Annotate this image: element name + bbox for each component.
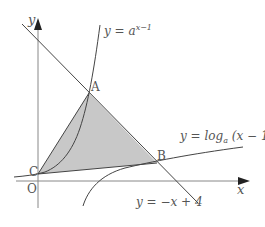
log-curve-label: y = loga (x − 1): [179, 129, 265, 145]
point-c-label: C: [29, 165, 38, 179]
line-label: y = −x + 4: [135, 195, 203, 209]
point-a-label: A: [90, 80, 100, 94]
y-axis-label: y: [27, 12, 36, 27]
line-y-neg-x-plus-4: [22, 24, 198, 203]
exp-curve-label: y = ax−1: [103, 23, 152, 38]
origin-label: O: [27, 182, 37, 196]
shaded-triangle-abc: [38, 93, 157, 174]
x-axis-label: x: [237, 182, 245, 197]
point-b-label: B: [157, 149, 166, 163]
function-graph-diagram: y x O A B C y = ax−1 y = loga (x − 1) y …: [0, 0, 265, 227]
